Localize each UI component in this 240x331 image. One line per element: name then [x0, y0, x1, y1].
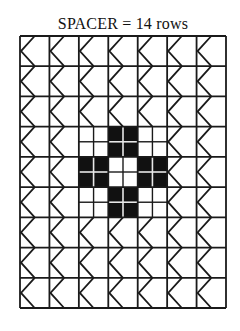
- chevron-icon: [50, 157, 64, 187]
- chevron-icon: [168, 248, 182, 278]
- chevron-icon: [198, 36, 212, 66]
- chevron-icon: [80, 66, 94, 96]
- chevron-icon: [50, 278, 64, 308]
- chevron-icon: [50, 187, 64, 217]
- chevron-icon: [21, 36, 35, 66]
- chevron-icon: [80, 217, 94, 247]
- chevron-icon: [50, 96, 64, 126]
- chevron-icon: [80, 36, 94, 66]
- chevron-icon: [198, 127, 212, 157]
- chevron-icon: [198, 157, 212, 187]
- chevron-icon: [21, 278, 35, 308]
- chevron-icon: [198, 187, 212, 217]
- chevron-icon: [21, 127, 35, 157]
- chevron-icon: [168, 187, 182, 217]
- chevron-icon: [109, 66, 123, 96]
- chevron-icon: [21, 96, 35, 126]
- chevron-icon: [168, 217, 182, 247]
- chevron-icon: [198, 248, 212, 278]
- chevron-icon: [80, 278, 94, 308]
- chevron-icon: [50, 36, 64, 66]
- chevron-icon: [139, 248, 153, 278]
- chevron-icon: [80, 96, 94, 126]
- chevron-icon: [50, 127, 64, 157]
- chevron-icon: [21, 157, 35, 187]
- chevron-icon: [168, 127, 182, 157]
- chevron-icon: [198, 278, 212, 308]
- chevron-icon: [109, 96, 123, 126]
- chevron-icon: [21, 217, 35, 247]
- chevron-icon: [168, 157, 182, 187]
- chevron-icon: [80, 248, 94, 278]
- chevron-icon: [198, 66, 212, 96]
- chevron-icon: [109, 248, 123, 278]
- chevron-icon: [109, 36, 123, 66]
- chevron-icon: [139, 278, 153, 308]
- chevron-icon: [139, 36, 153, 66]
- chevron-icon: [139, 96, 153, 126]
- spacer-grid-diagram: [0, 0, 240, 331]
- chevron-icon: [21, 187, 35, 217]
- pattern-block: [79, 127, 167, 218]
- chevron-icon: [139, 66, 153, 96]
- chevron-icon: [168, 66, 182, 96]
- chevron-icon: [21, 66, 35, 96]
- chevron-icon: [50, 66, 64, 96]
- chevron-icon: [50, 248, 64, 278]
- chevron-icon: [139, 217, 153, 247]
- chevron-icon: [109, 217, 123, 247]
- chevron-icon: [50, 217, 64, 247]
- chevron-icon: [168, 278, 182, 308]
- chevron-icon: [168, 36, 182, 66]
- chevron-icon: [198, 217, 212, 247]
- chevron-icon: [109, 278, 123, 308]
- chevron-icon: [198, 96, 212, 126]
- chevron-icon: [21, 248, 35, 278]
- chevron-icon: [168, 96, 182, 126]
